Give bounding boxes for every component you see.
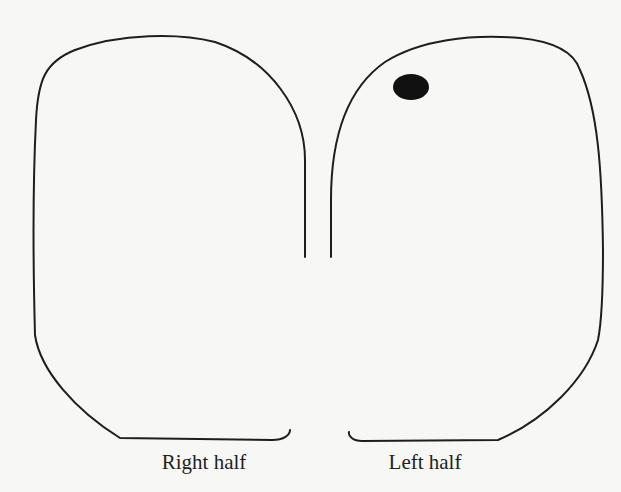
left-half-label: Left half — [389, 450, 462, 475]
marker-dot — [393, 74, 429, 100]
hemispheres-diagram — [0, 0, 621, 492]
right-half-outline — [34, 36, 305, 440]
right-half-label: Right half — [162, 450, 247, 475]
left-half-outline — [331, 37, 603, 441]
